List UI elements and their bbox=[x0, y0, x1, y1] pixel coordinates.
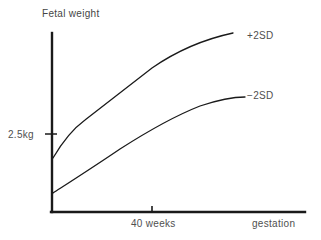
x-axis-tick-label-40-weeks: 40 weeks bbox=[131, 219, 176, 229]
series-label-plus-2sd: +2SD bbox=[247, 31, 274, 41]
chart-title: Fetal weight bbox=[42, 9, 100, 19]
curve-plus-2sd bbox=[53, 33, 233, 158]
series-label-minus-2sd: −2SD bbox=[247, 91, 274, 101]
fetal-weight-chart: Fetal weight 2.5kg 40 weeks gestation +2… bbox=[0, 0, 321, 240]
curve-minus-2sd bbox=[53, 97, 245, 193]
x-axis-label-gestation: gestation bbox=[252, 219, 295, 229]
y-axis-tick-label-2-5kg: 2.5kg bbox=[8, 130, 34, 140]
